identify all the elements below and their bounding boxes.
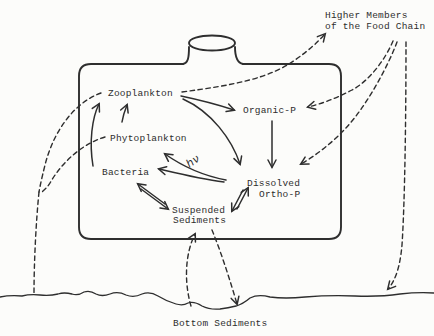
arrow-dissolved-to-bacteria (159, 169, 224, 182)
exchange-bacteria-to-suspended (141, 189, 168, 209)
arrow-zooplankton-to-organic-p (181, 96, 234, 110)
diagram-canvas: Higher Members of the Food Chain Zooplan… (0, 0, 434, 336)
phosphorus-cycle-diagram: Higher Members of the Food Chain Zooplan… (0, 0, 434, 336)
arrow-bacteria-to-zooplankton (91, 104, 99, 166)
label-light-hv: hν (183, 152, 202, 171)
tank-neck-left (183, 47, 189, 64)
label-higher-members-line1: Higher Members (325, 10, 408, 21)
dashed-zooplankton-to-higher-members (182, 34, 325, 92)
arrow-phytoplankton-to-zooplankton (122, 105, 127, 122)
label-bottom-sediments: Bottom Sediments (173, 318, 267, 329)
dashed-bottom-to-suspended (186, 234, 195, 306)
label-higher-members-line2: of the Food Chain (325, 21, 425, 32)
label-zooplankton: Zooplankton (108, 88, 173, 99)
label-dissolved-line1: Dissolved (247, 178, 300, 189)
label-organic-p: Organic-P (243, 105, 296, 116)
label-dissolved-line2: Ortho-P (259, 189, 300, 200)
tank-opening-ellipse (189, 36, 235, 51)
dashed-suspended-to-bottom (212, 230, 237, 304)
dashed-settling-to-bottom (34, 192, 39, 294)
label-suspended-line2: Sediments (173, 215, 226, 226)
dashed-higher-members-to-bottom-sediments (388, 42, 406, 289)
sediment-surface-line (0, 291, 434, 309)
exchange-suspended-to-bacteria (138, 184, 165, 204)
tank-neck-right (235, 47, 243, 64)
labels: Higher Members of the Food Chain Zooplan… (102, 10, 425, 329)
dashed-arrows (34, 34, 406, 306)
label-phytoplankton: Phytoplankton (110, 133, 187, 144)
label-bacteria: Bacteria (102, 167, 149, 178)
dashed-higher-members-to-organic-p (308, 41, 393, 107)
dashed-higher-members-to-dissolved (301, 42, 397, 164)
